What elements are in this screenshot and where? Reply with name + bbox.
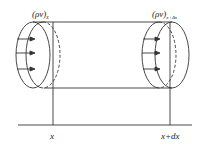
control-volume-diagram: (ρv)x (ρv)x+Δx x x+dx: [0, 0, 202, 146]
flux-in-label: (ρv)x: [32, 9, 49, 20]
axis-label-x: x: [49, 131, 54, 141]
right-flux-arrows: [142, 37, 160, 71]
right-cross-section: [142, 22, 189, 88]
flux-out-label: (ρv)x+Δx: [152, 9, 178, 20]
left-flux-arrows: [16, 37, 35, 71]
axis-label-x-plus-dx: x+dx: [160, 131, 180, 141]
